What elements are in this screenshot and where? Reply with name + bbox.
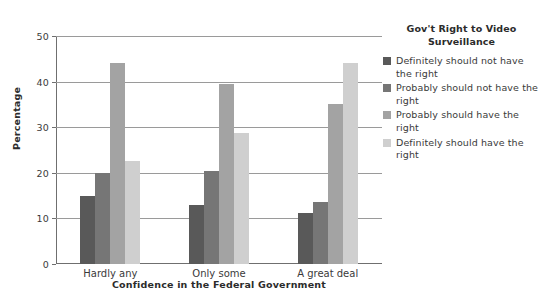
bar-chart-figure: Percentage 01020304050 Hardly anyOnly so… <box>0 0 541 297</box>
y-axis-tick-mark <box>52 82 56 83</box>
legend-item-label: Probably should not have the right <box>396 82 541 107</box>
y-axis-tick-mark <box>52 218 56 219</box>
bar <box>298 213 313 264</box>
y-axis-tick-mark <box>52 36 56 37</box>
bar-group <box>298 36 358 264</box>
legend-swatch-icon <box>383 84 391 92</box>
legend-item-label: Probably should have the right <box>396 109 541 134</box>
bar-group <box>189 36 249 264</box>
legend-title-line-1: Gov't Right to Video <box>389 22 534 35</box>
legend-item[interactable]: Definitely should not have the right <box>383 55 541 80</box>
x-axis-title: Confidence in the Federal Government <box>56 279 382 290</box>
legend-title-line-2: Surveillance <box>389 35 534 48</box>
legend-swatch-icon <box>383 139 391 147</box>
legend: Gov't Right to Video Surveillance Defini… <box>383 22 541 164</box>
plot-area: 01020304050 Hardly anyOnly someA great d… <box>56 36 382 264</box>
y-axis-tick-mark <box>52 173 56 174</box>
legend-swatch-icon <box>383 57 391 65</box>
bar <box>219 84 234 264</box>
bar <box>204 171 219 264</box>
bar <box>110 63 125 264</box>
bar <box>343 63 358 264</box>
legend-items: Definitely should not have the rightProb… <box>383 55 541 162</box>
legend-swatch-icon <box>383 111 391 119</box>
legend-item[interactable]: Probably should not have the right <box>383 82 541 107</box>
x-axis-tick-label: A great deal <box>258 268 398 279</box>
y-axis-tick-label: 50 <box>37 31 50 42</box>
bar <box>189 205 204 264</box>
legend-item-label: Definitely should have the right <box>396 137 541 162</box>
y-axis-tick-label: 40 <box>37 76 50 87</box>
bar <box>328 104 343 264</box>
legend-item[interactable]: Probably should have the right <box>383 109 541 134</box>
y-axis-line <box>56 36 57 264</box>
y-axis-tick-mark <box>52 264 56 265</box>
bar <box>234 133 249 264</box>
y-axis-tick-mark <box>52 127 56 128</box>
legend-item-label: Definitely should not have the right <box>396 55 541 80</box>
legend-item[interactable]: Definitely should have the right <box>383 137 541 162</box>
bar <box>95 173 110 264</box>
legend-title: Gov't Right to Video Surveillance <box>389 22 534 48</box>
y-axis-tick-label: 30 <box>37 122 50 133</box>
bar <box>125 161 140 264</box>
bar <box>313 202 328 264</box>
y-axis-tick-label: 20 <box>37 167 50 178</box>
y-axis-title: Percentage <box>11 87 22 150</box>
y-axis-tick-label: 10 <box>37 213 50 224</box>
bar-group <box>80 36 140 264</box>
bar <box>80 196 95 264</box>
